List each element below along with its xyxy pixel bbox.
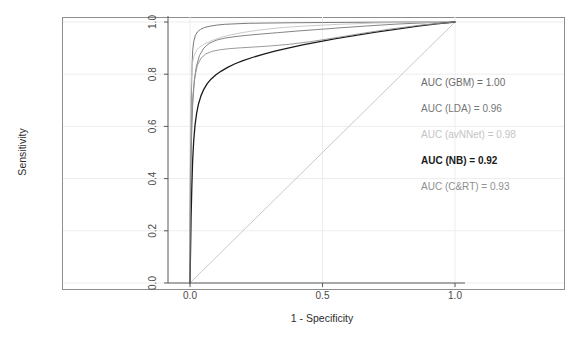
svg-text:1.0: 1.0: [448, 290, 462, 301]
svg-text:0.0: 0.0: [147, 276, 158, 290]
svg-text:1.0: 1.0: [147, 15, 158, 29]
svg-text:0.0: 0.0: [183, 290, 197, 301]
chart-container: 0.00.51.00.00.20.40.60.81.0 1 - Specific…: [0, 0, 583, 340]
x-axis-title: 1 - Specificity: [291, 312, 354, 324]
legend-item-avnnet: AUC (avNNet) = 0.98: [421, 130, 561, 140]
svg-text:0.5: 0.5: [316, 290, 330, 301]
svg-text:0.4: 0.4: [147, 171, 158, 185]
legend-item-gbm: AUC (GBM) = 1.00: [421, 78, 561, 88]
legend-item-nb: AUC (NB) = 0.92: [421, 156, 561, 166]
y-axis-title: Sensitivity: [16, 128, 28, 176]
auc-legend: AUC (GBM) = 1.00 AUC (LDA) = 0.96 AUC (a…: [421, 78, 561, 208]
svg-text:0.8: 0.8: [147, 67, 158, 81]
legend-item-lda: AUC (LDA) = 0.96: [421, 104, 561, 114]
legend-item-crt: AUC (C&RT) = 0.93: [421, 182, 561, 192]
svg-text:0.2: 0.2: [147, 223, 158, 237]
axis-tick-labels: 0.00.51.00.00.20.40.60.81.0: [147, 15, 462, 301]
svg-text:0.6: 0.6: [147, 119, 158, 133]
